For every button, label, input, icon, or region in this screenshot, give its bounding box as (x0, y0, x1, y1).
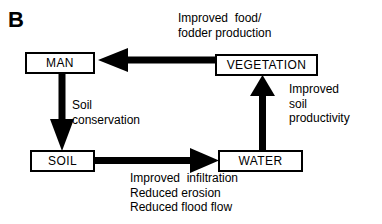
arrow-vegetation-to-man (98, 48, 215, 72)
node-soil-label: SOIL (48, 154, 77, 168)
node-man: MAN (25, 52, 95, 74)
node-vegetation-label: VEGETATION (227, 58, 307, 72)
figure-panel-b: B MAN VEGETATION SOIL WATER (0, 0, 382, 224)
annotation-improved-food: Improved food/ fodder production (178, 11, 271, 40)
node-man-label: MAN (46, 56, 74, 70)
node-soil: SOIL (30, 150, 95, 172)
node-vegetation: VEGETATION (215, 54, 318, 76)
annotation-infiltration: Improved infiltration Reduced erosion Re… (130, 171, 238, 215)
arrow-man-to-soil (50, 73, 74, 151)
arrow-soil-to-water (95, 148, 219, 173)
annotation-soil-conservation: Soil conservation (72, 98, 140, 127)
node-water: WATER (218, 150, 303, 172)
node-water-label: WATER (239, 154, 283, 168)
annotation-soil-productivity: Improved soil productivity (289, 82, 350, 126)
arrow-water-to-vegetation (250, 75, 275, 151)
